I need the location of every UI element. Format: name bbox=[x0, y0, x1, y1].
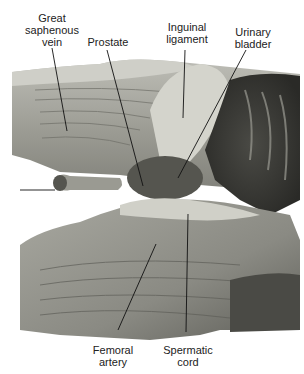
anatomy-figure: Great saphenous vein Prostate Inguinal l… bbox=[0, 0, 304, 374]
dissection-photo bbox=[0, 0, 304, 374]
label-femoral-artery: Femoral artery bbox=[86, 344, 140, 368]
label-prostate: Prostate bbox=[82, 36, 134, 48]
label-spermatic-cord: Spermatic cord bbox=[159, 344, 217, 368]
label-great-saphenous-vein: Great saphenous vein bbox=[22, 12, 82, 48]
label-inguinal-ligament: Inguinal ligament bbox=[160, 21, 214, 45]
label-urinary-bladder: Urinary bladder bbox=[226, 26, 280, 50]
